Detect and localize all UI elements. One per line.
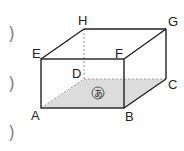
answer-bracket-3: ) xyxy=(8,122,15,143)
vertex-label-d: D xyxy=(72,66,81,81)
vertex-label-c: C xyxy=(168,77,177,92)
vertex-label-f: F xyxy=(115,46,123,61)
vertex-label-a: A xyxy=(31,108,40,123)
vertex-label-h: H xyxy=(78,13,87,28)
prism-diagram: あ H G E F D C A B ) ) ) xyxy=(0,0,184,151)
vertex-label-b: B xyxy=(125,109,134,124)
face-label: あ xyxy=(94,89,103,99)
vertex-label-e: E xyxy=(32,46,41,61)
edge-eh xyxy=(41,29,84,59)
answer-bracket-1: ) xyxy=(8,23,15,44)
vertex-label-g: G xyxy=(168,14,178,29)
shaded-face-abcd xyxy=(41,79,166,108)
edge-fg xyxy=(124,29,166,59)
answer-bracket-2: ) xyxy=(8,73,15,94)
